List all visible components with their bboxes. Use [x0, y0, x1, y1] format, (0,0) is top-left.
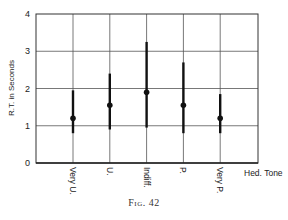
y-tick-label: 3: [25, 46, 30, 56]
x-axis-category-labels: Very U.U.Indiff.P.Very P.: [68, 167, 225, 195]
x-category-label: P.: [178, 167, 188, 174]
mean-point: [144, 89, 150, 95]
y-tick-label: 1: [25, 121, 30, 131]
mean-point: [181, 102, 187, 108]
x-axis-label: Hed. Tone: [244, 168, 283, 178]
data-point-group: [144, 42, 150, 128]
data-point-group: [107, 74, 113, 130]
caption-prefix: Fig.: [128, 197, 145, 208]
y-axis-label: R.T. in Seconds: [7, 60, 16, 116]
mean-point: [70, 116, 76, 122]
y-axis-ticks: 01234: [25, 9, 30, 168]
mean-point: [107, 102, 113, 108]
data-series: [70, 42, 223, 133]
x-category-label: Very U.: [68, 167, 78, 195]
data-point-group: [181, 62, 187, 133]
y-tick-label: 2: [25, 84, 30, 94]
y-tick-label: 4: [25, 9, 30, 19]
data-point-group: [70, 90, 76, 133]
y-tick-label: 0: [25, 158, 30, 168]
x-category-label: Indiff.: [142, 167, 152, 188]
reaction-time-chart: 01234 R.T. in Seconds Very U.U.Indiff.P.…: [0, 0, 288, 200]
data-point-group: [217, 94, 223, 133]
x-category-label: U.: [105, 167, 115, 176]
figure-caption: Fig. 42: [0, 197, 288, 208]
mean-point: [217, 116, 223, 122]
caption-number: 42: [146, 197, 160, 208]
x-category-label: Very P.: [215, 167, 225, 193]
